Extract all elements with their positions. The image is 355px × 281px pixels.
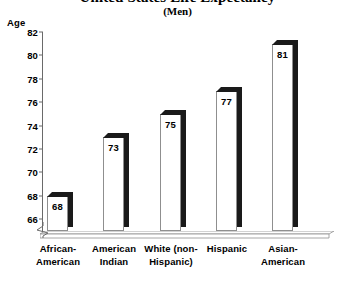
bar-side-shadow (124, 133, 129, 227)
bar-side-shadow (181, 110, 186, 227)
bar-value-label: 73 (103, 142, 124, 153)
x-axis-category-labels: African- American American Indian White … (42, 243, 332, 279)
bar-side-shadow (237, 87, 242, 227)
bar-asian-american[interactable]: 81 (272, 44, 298, 231)
y-axis-line (42, 32, 43, 231)
y-tick-mark (39, 172, 43, 173)
y-tick-mark (39, 195, 43, 196)
y-tick-mark (39, 78, 43, 79)
bar-white-non-hispanic[interactable]: 75 (160, 114, 186, 231)
category-label-asian-american: Asian- American (247, 243, 319, 268)
bar-top-cap (47, 192, 73, 197)
bar-front-face (272, 44, 293, 231)
y-tick-label: 82 (27, 27, 38, 38)
bar-side-shadow (293, 40, 298, 227)
bar-side-shadow (68, 192, 73, 227)
bar-value-label: 75 (160, 119, 181, 130)
y-tick-label: 78 (27, 73, 38, 84)
y-tick-mark (39, 102, 43, 103)
y-tick-mark (39, 55, 43, 56)
y-tick-label: 72 (27, 144, 38, 155)
y-tick-mark (39, 125, 43, 126)
bar-top-cap (272, 40, 298, 45)
bar-front-face (216, 91, 237, 231)
y-tick-mark (39, 149, 43, 150)
bar-chart: United States Life Expectancy (Men) Age … (0, 0, 355, 281)
y-tick-label: 76 (27, 97, 38, 108)
y-tick-label: 74 (27, 120, 38, 131)
chart-baseline-platform (40, 231, 334, 243)
y-axis-label: Age (7, 17, 26, 28)
bar-top-cap (160, 110, 186, 115)
bar-hispanic[interactable]: 77 (216, 91, 242, 231)
y-tick-label: 70 (27, 167, 38, 178)
bar-value-label: 68 (47, 201, 68, 212)
y-tick-mark (39, 219, 43, 220)
y-tick-label: 80 (27, 50, 38, 61)
chart-subtitle: (Men) (0, 5, 355, 17)
bar-top-cap (216, 87, 242, 92)
y-tick-mark (39, 32, 43, 33)
bar-african-american[interactable]: 68 (47, 196, 73, 231)
bar-value-label: 81 (272, 49, 293, 60)
bar-top-cap (103, 133, 129, 138)
bar-american-indian[interactable]: 73 (103, 137, 129, 231)
bar-front-face (160, 114, 181, 231)
plot-area: 82 80 78 76 74 72 70 68 66 68 (42, 32, 332, 231)
y-tick-label: 68 (27, 190, 38, 201)
bar-value-label: 77 (216, 96, 237, 107)
